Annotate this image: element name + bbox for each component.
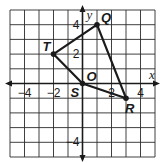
- x-tick-label: 2: [108, 86, 115, 100]
- y-tick-label: 4: [73, 18, 80, 32]
- vertex-label-S: S: [71, 85, 80, 100]
- vertex-label-R: R: [125, 101, 135, 116]
- origin-label: O: [87, 69, 97, 84]
- y-axis-label: y: [85, 7, 93, 22]
- polygon-edges: [54, 25, 127, 99]
- vertex-point-R: [123, 95, 129, 101]
- vertex-point-T: [51, 51, 57, 57]
- y-tick-label: 2: [73, 47, 80, 61]
- x-tick-label: −2: [47, 86, 61, 100]
- coordinate-plane: xy−4−22442−4QTSRO: [0, 0, 161, 163]
- x-axis-label: x: [148, 67, 155, 82]
- x-axis-left-arrow-icon: [5, 81, 12, 87]
- quadrilateral-QTSR: [51, 22, 129, 101]
- x-tick-label: 4: [137, 86, 144, 100]
- y-axis-up-arrow-icon: [80, 5, 86, 12]
- y-tick-label: −4: [66, 135, 80, 149]
- x-tick-label: −4: [18, 86, 32, 100]
- vertex-label-Q: Q: [101, 10, 111, 25]
- vertex-point-S: [80, 81, 86, 87]
- vertex-label-T: T: [43, 39, 52, 54]
- y-axis-down-arrow-icon: [80, 155, 86, 162]
- vertex-point-Q: [94, 22, 100, 28]
